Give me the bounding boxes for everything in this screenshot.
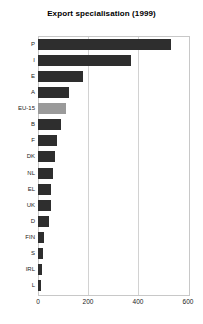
bar-i[interactable] [38,55,131,66]
y-tick-label-eu-15: EU-15 [0,105,35,112]
bar-row [38,149,55,165]
bar-row [38,36,171,52]
bar-eu-15[interactable] [38,103,66,114]
bar-row [38,165,53,181]
bar-fin[interactable] [38,232,44,243]
y-tick-label-a: A [0,89,35,96]
y-axis-labels: PIEAEU-15BFDKNLELUKDFINSIRLL [0,36,35,295]
bar-row [38,230,44,246]
bar-f[interactable] [38,135,57,146]
x-tick-label-400: 400 [133,298,144,305]
x-axis-labels: 0200400600 [0,298,203,312]
y-tick-label-s: S [0,250,35,257]
bar-b[interactable] [38,119,61,130]
bar-row [38,84,69,100]
y-tick-label-irl: IRL [0,266,35,273]
y-tick-label-uk: UK [0,202,35,209]
bar-uk[interactable] [38,200,51,211]
bar-e[interactable] [38,71,83,82]
bar-d[interactable] [38,216,49,227]
bar-row [38,213,49,229]
x-tick-label-0: 0 [36,298,40,305]
y-tick-label-el: EL [0,186,35,193]
bar-row [38,181,51,197]
bar-el[interactable] [38,184,51,195]
bar-row [38,197,51,213]
y-tick-label-i: I [0,57,35,64]
bar-row [38,262,42,278]
bar-row [38,246,43,262]
y-tick-label-d: D [0,218,35,225]
chart-title: Export specialisation (1999) [0,9,203,18]
bar-irl[interactable] [38,264,42,275]
bar-row [38,117,61,133]
bar-s[interactable] [38,248,43,259]
bar-a[interactable] [38,87,69,98]
y-tick-label-e: E [0,73,35,80]
y-tick-label-dk: DK [0,153,35,160]
y-tick-label-l: L [0,282,35,289]
bar-row [38,278,41,294]
y-tick-label-p: P [0,41,35,48]
x-tick-label-600: 600 [183,298,194,305]
bar-row [38,133,57,149]
y-tick-label-nl: NL [0,170,35,177]
bar-row [38,101,66,117]
y-tick-label-b: B [0,121,35,128]
bar-nl[interactable] [38,168,53,179]
bar-row [38,68,83,84]
bar-row [38,52,131,68]
y-tick-label-f: F [0,137,35,144]
bar-l[interactable] [38,280,41,291]
y-tick-label-fin: FIN [0,234,35,241]
bar-p[interactable] [38,39,171,50]
x-tick-label-200: 200 [83,298,94,305]
bars-layer [38,36,189,295]
bar-dk[interactable] [38,151,55,162]
chart-container: Export specialisation (1999) PIEAEU-15BF… [0,0,203,324]
